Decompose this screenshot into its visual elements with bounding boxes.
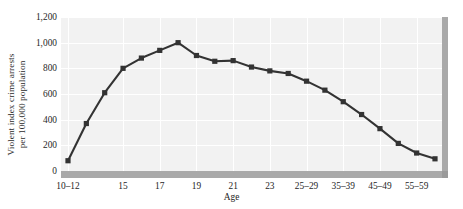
data-point-marker <box>176 40 181 45</box>
data-point-marker <box>286 71 291 76</box>
axis-shadow-bottom <box>61 171 448 178</box>
y-tick-label: 600 <box>43 89 57 99</box>
y-tick-label: 400 <box>43 115 57 125</box>
series-markers <box>65 40 437 163</box>
data-series-line <box>61 17 442 171</box>
x-tick-label: 55–59 <box>405 181 428 191</box>
data-point-marker <box>194 53 199 58</box>
data-point-marker <box>120 66 125 71</box>
x-tick-label: 15 <box>118 181 127 191</box>
axis-shadow-right <box>442 17 448 171</box>
series-polyline <box>68 43 435 161</box>
data-point-marker <box>102 90 107 95</box>
data-point-marker <box>84 121 89 126</box>
data-point-marker <box>157 48 162 53</box>
x-tick-label: 25–29 <box>295 181 318 191</box>
data-point-marker <box>377 126 382 131</box>
x-tick-label: 35–39 <box>332 181 355 191</box>
data-point-marker <box>231 58 236 63</box>
y-tick-label: 1,000 <box>36 38 57 48</box>
data-point-marker <box>212 59 217 64</box>
y-axis-tick-labels: 02004006008001,0001,200 <box>6 17 57 171</box>
data-point-marker <box>249 64 254 69</box>
data-point-marker <box>341 99 346 104</box>
data-point-marker <box>139 55 144 60</box>
plot-area <box>61 17 442 171</box>
x-tick-label: 23 <box>265 181 274 191</box>
x-tick-label: 21 <box>228 181 237 191</box>
x-tick-label: 17 <box>155 181 164 191</box>
data-point-marker <box>267 68 272 73</box>
data-point-marker <box>396 141 401 146</box>
data-point-marker <box>432 156 437 161</box>
x-axis-title-text: Age <box>224 192 240 202</box>
data-point-marker <box>65 158 70 163</box>
axis-shadow-corner <box>442 171 448 178</box>
y-tick-label: 0 <box>52 166 57 176</box>
x-tick-label: 45–49 <box>368 181 391 191</box>
data-point-marker <box>304 79 309 84</box>
x-tick-label: 10–12 <box>56 181 79 191</box>
y-tick-label: 1,200 <box>36 12 57 22</box>
y-tick-label: 800 <box>43 63 57 73</box>
data-point-marker <box>359 112 364 117</box>
x-tick-label: 19 <box>192 181 201 191</box>
chart-figure: Violent index crime arrests per 100,000 … <box>0 0 463 209</box>
data-point-marker <box>322 88 327 93</box>
data-point-marker <box>414 150 419 155</box>
x-axis-title: Age <box>0 192 463 202</box>
y-tick-label: 200 <box>43 140 57 150</box>
